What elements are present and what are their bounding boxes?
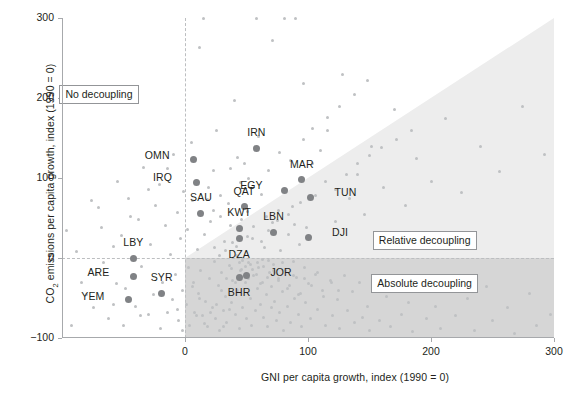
data-point <box>521 105 524 108</box>
data-point <box>549 313 552 316</box>
data-point <box>282 329 285 332</box>
data-point <box>281 290 284 293</box>
y-tick-label: 200 <box>18 91 54 103</box>
data-point <box>214 317 217 320</box>
annotation-no-decoupling: No decoupling <box>59 85 138 104</box>
data-point <box>198 46 201 49</box>
data-point <box>164 224 167 227</box>
data-point <box>380 146 383 149</box>
data-point <box>358 281 361 284</box>
data-point <box>286 305 289 308</box>
data-point <box>337 289 340 292</box>
data-point <box>152 293 155 296</box>
data-point <box>246 235 249 238</box>
data-point <box>363 213 366 216</box>
data-point <box>176 211 179 214</box>
point-label-irn: IRN <box>216 126 296 138</box>
data-point-syr <box>158 290 165 297</box>
data-point <box>107 317 110 320</box>
data-point <box>186 228 189 231</box>
data-point <box>181 289 184 292</box>
data-point <box>286 287 289 290</box>
x-tick-label: 200 <box>411 345 451 357</box>
data-point <box>410 129 413 132</box>
data-point <box>460 191 463 194</box>
data-point <box>351 290 354 293</box>
data-point <box>353 321 356 324</box>
data-point <box>338 105 341 108</box>
data-point <box>266 276 269 279</box>
data-point <box>378 319 381 322</box>
data-point <box>166 311 169 314</box>
data-point <box>112 303 115 306</box>
data-point <box>259 303 262 306</box>
data-point <box>430 180 433 183</box>
data-point <box>234 281 237 284</box>
data-point <box>361 316 364 319</box>
data-point <box>270 306 273 309</box>
data-point <box>229 167 232 170</box>
plot-area: OMNIRNMARIRQEGYTUNQATSAUKWTLBNDJIDZALBYJ… <box>62 18 554 338</box>
data-point <box>139 314 142 317</box>
data-point <box>259 282 262 285</box>
data-point <box>356 173 359 176</box>
data-point <box>255 273 258 276</box>
data-point <box>326 116 329 119</box>
data-point <box>251 237 254 240</box>
point-label-lby: LBY <box>93 236 173 248</box>
data-point <box>243 162 246 165</box>
x-tick-label: 300 <box>534 345 574 357</box>
data-point <box>393 108 396 111</box>
data-point <box>154 204 157 207</box>
data-point <box>334 220 337 223</box>
data-point <box>324 324 327 327</box>
data-point <box>326 129 329 132</box>
data-point <box>100 226 103 229</box>
data-point <box>233 99 236 102</box>
data-point <box>249 263 252 266</box>
data-point <box>287 233 290 236</box>
data-point <box>97 206 100 209</box>
data-point <box>179 237 182 240</box>
data-point <box>543 153 546 156</box>
data-point-omn <box>190 156 197 163</box>
point-label-mar: MAR <box>262 158 342 170</box>
data-point <box>211 306 214 309</box>
data-point <box>311 127 314 130</box>
data-point <box>395 138 398 141</box>
data-point <box>244 281 247 284</box>
data-point <box>176 308 179 311</box>
chart-figure: CO2 emissions per capita growth, index (… <box>0 0 578 394</box>
data-point <box>341 73 344 76</box>
data-point <box>202 17 205 20</box>
point-label-syr: SYR <box>122 271 202 283</box>
data-point <box>277 279 280 282</box>
point-label-dza: DZA <box>199 248 279 260</box>
data-point <box>262 316 265 319</box>
data-point <box>140 265 143 268</box>
point-label-yem: YEM <box>62 290 104 302</box>
data-point <box>498 170 501 173</box>
data-point <box>303 266 306 269</box>
data-point <box>129 215 132 218</box>
annotation-relative-decoupling: Relative decoupling <box>373 231 477 250</box>
data-point <box>283 17 286 20</box>
data-point <box>127 197 130 200</box>
data-point <box>65 229 68 232</box>
point-label-omn: OMN <box>62 149 170 161</box>
data-point <box>252 225 255 228</box>
point-label-sau: SAU <box>161 191 241 203</box>
data-point-kwt <box>236 225 243 232</box>
data-point <box>293 297 296 300</box>
data-point <box>137 218 140 221</box>
data-point <box>203 233 206 236</box>
x-axis-title: GNI per capita growth, index (1990 = 0) <box>157 371 553 383</box>
data-point <box>292 260 295 263</box>
data-point <box>166 167 169 170</box>
data-point <box>288 284 291 287</box>
data-point <box>169 253 172 256</box>
data-point <box>234 313 237 316</box>
data-point <box>305 226 308 229</box>
data-point <box>134 305 137 308</box>
data-point <box>330 281 333 284</box>
